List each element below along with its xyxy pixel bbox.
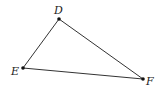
triangle-diagram: D E F xyxy=(0,0,167,91)
label-d: D xyxy=(53,4,63,17)
segment-de xyxy=(23,19,59,68)
label-f: F xyxy=(145,75,154,88)
segment-df xyxy=(59,19,143,79)
label-e: E xyxy=(10,65,19,78)
point-d xyxy=(57,17,61,21)
point-e xyxy=(21,66,25,70)
point-f xyxy=(141,77,145,81)
segment-ef xyxy=(23,68,143,79)
